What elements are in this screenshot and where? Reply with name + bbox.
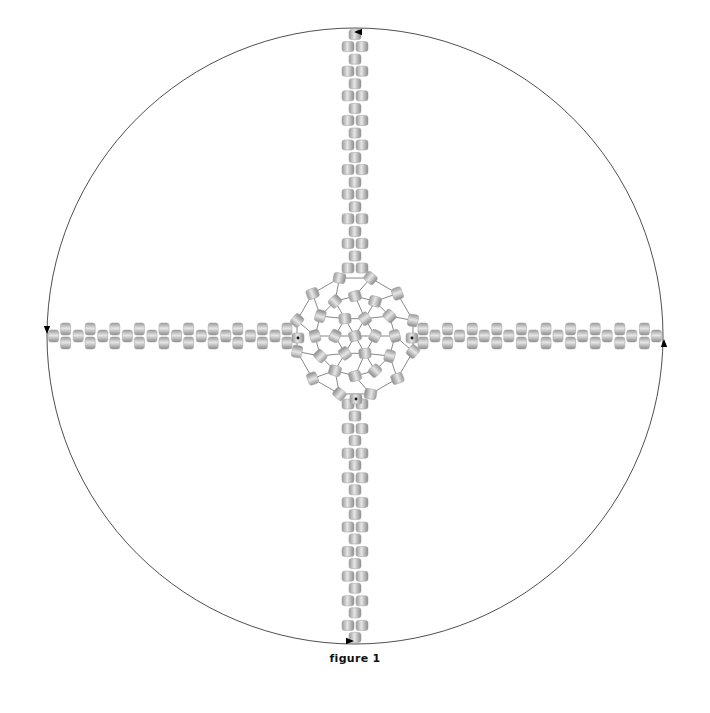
hub-bead xyxy=(348,330,362,343)
hub-bead xyxy=(364,388,378,400)
arm-pair-bead xyxy=(356,91,368,101)
arm-pair-bead xyxy=(443,323,453,335)
arm-single-bead xyxy=(349,79,361,89)
hub-bead xyxy=(337,346,352,362)
arm-pair-bead xyxy=(85,337,95,349)
arm-pair-bead xyxy=(467,337,477,349)
arm-single-bead xyxy=(245,330,255,342)
arm-pair-bead xyxy=(257,323,267,335)
arm-pair-bead xyxy=(85,323,95,335)
hub-bead xyxy=(389,329,402,343)
arm-pair-bead xyxy=(492,323,502,335)
arm-pair-bead xyxy=(184,337,194,349)
hub-bead xyxy=(390,372,405,386)
arm-single-bead xyxy=(270,330,280,342)
arm-pair-bead xyxy=(590,323,600,335)
hub-bead xyxy=(368,295,382,308)
arm-pair-bead xyxy=(110,337,120,349)
arm-single-bead xyxy=(349,485,361,495)
arm-pair-bead xyxy=(342,42,354,52)
hub-beads xyxy=(289,270,420,404)
hub-bead xyxy=(348,370,362,383)
arm-top xyxy=(342,30,368,273)
hub-bead xyxy=(339,313,352,324)
beadwork-diagram xyxy=(0,0,710,713)
arm-single-bead xyxy=(196,330,206,342)
arm-single-bead xyxy=(49,330,59,342)
arm-pair-bead xyxy=(516,337,526,349)
arm-pair-bead xyxy=(639,323,649,335)
arm-pair-bead xyxy=(541,337,551,349)
arm-pair-bead xyxy=(342,473,354,483)
arm-single-bead xyxy=(349,103,361,113)
hub-bead xyxy=(348,290,362,303)
marker-bead-left xyxy=(292,333,304,343)
arm-pair-bead xyxy=(159,337,169,349)
arm-single-bead xyxy=(122,330,132,342)
arm-pair-bead xyxy=(356,596,368,606)
arm-single-bead xyxy=(349,177,361,187)
arm-pair-bead xyxy=(61,337,71,349)
arm-single-bead xyxy=(430,330,440,342)
arm-single-bead xyxy=(172,330,182,342)
arm-left xyxy=(49,323,292,349)
arm-pair-bead xyxy=(134,337,144,349)
arm-pair-bead xyxy=(356,214,368,224)
arm-single-bead xyxy=(479,330,489,342)
arm-single-bead xyxy=(349,436,361,446)
arm-pair-bead xyxy=(418,323,428,335)
arm-pair-bead xyxy=(184,323,194,335)
arm-pair-bead xyxy=(342,91,354,101)
arm-pair-bead xyxy=(61,323,71,335)
arm-pair-bead xyxy=(356,140,368,150)
arm-pair-bead xyxy=(342,115,354,125)
hub-bead xyxy=(357,311,372,327)
arm-single-bead xyxy=(651,330,661,342)
hub-bead xyxy=(328,328,342,343)
arm-pair-bead xyxy=(282,323,292,335)
arm-bottom xyxy=(342,399,368,642)
arm-pair-bead xyxy=(541,323,551,335)
arm-single-bead xyxy=(504,330,514,342)
hub-bead xyxy=(383,349,396,363)
hub-bead xyxy=(333,272,347,284)
arm-pair-bead xyxy=(342,620,354,630)
arm-pair-bead xyxy=(356,238,368,248)
hub-bead xyxy=(368,328,382,343)
arm-pair-bead xyxy=(159,323,169,335)
arm-pair-bead xyxy=(356,189,368,199)
figure-caption: figure 1 xyxy=(0,652,710,665)
arm-single-bead xyxy=(147,330,157,342)
hub-bead xyxy=(359,348,372,359)
hub-bead xyxy=(291,345,303,359)
arm-pair-bead xyxy=(233,323,243,335)
arm-pair-bead xyxy=(566,323,576,335)
arm-pair-bead xyxy=(467,323,477,335)
arm-single-bead xyxy=(349,128,361,138)
arrow-right-icon xyxy=(661,339,667,347)
arm-pair-bead xyxy=(208,323,218,335)
arm-pair-bead xyxy=(356,497,368,507)
arm-pair-bead xyxy=(356,66,368,76)
arm-pair-bead xyxy=(342,547,354,557)
arm-single-bead xyxy=(349,226,361,236)
arm-pair-bead xyxy=(615,323,625,335)
arm-pair-bead xyxy=(134,323,144,335)
arm-pair-bead xyxy=(356,42,368,52)
arm-pair-bead xyxy=(356,165,368,175)
arm-pair-bead xyxy=(356,115,368,125)
arm-pair-bead xyxy=(356,571,368,581)
arm-pair-bead xyxy=(342,424,354,434)
arm-single-bead xyxy=(528,330,538,342)
arm-pair-bead xyxy=(342,66,354,76)
arm-pair-bead xyxy=(590,337,600,349)
arm-pair-bead xyxy=(282,337,292,349)
arm-pair-bead xyxy=(342,214,354,224)
arm-single-bead xyxy=(349,608,361,618)
arm-pair-bead xyxy=(342,571,354,581)
arm-pair-bead xyxy=(356,620,368,630)
arm-pair-bead xyxy=(342,596,354,606)
arm-pair-bead xyxy=(342,140,354,150)
arm-pair-bead xyxy=(342,189,354,199)
hub-bead xyxy=(309,329,322,343)
